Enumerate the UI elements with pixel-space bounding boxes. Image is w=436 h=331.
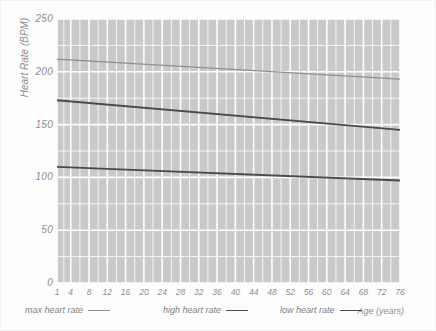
legend-label: max heart rate [25,305,83,315]
y-tick-label: 100 [35,171,53,182]
x-tick-label: 52 [286,287,295,297]
chart-canvas: Heart Rate (BPM) 250200150100500 1481216… [0,0,436,331]
x-tick-label: 60 [322,287,331,297]
x-tick-label: 16 [121,287,130,297]
x-tick-label: 72 [377,287,386,297]
legend-item: high heart rate [163,305,248,315]
legend-line-swatch [88,310,110,311]
y-tick-label: 50 [41,224,53,235]
series-line-low-heart-rate [57,167,400,181]
x-tick-label: 24 [157,287,166,297]
y-tick-label: 200 [35,66,53,77]
data-lines [57,19,400,283]
series-line-high-heart-rate [57,100,400,130]
x-tick-label: 56 [304,287,313,297]
x-tick-label: 32 [194,287,203,297]
x-tick-label: 28 [176,287,185,297]
chart-legend: max heart ratehigh heart ratelow heart r… [0,305,340,321]
x-tick-label: 1 [55,287,60,297]
x-tick-label: 68 [359,287,368,297]
legend-item: low heart rate [280,305,362,315]
x-tick-label: 76 [395,287,404,297]
x-axis-label: Age (years) [357,306,404,316]
plot-area [57,19,400,283]
x-tick-label: 40 [231,287,240,297]
x-tick-label: 4 [68,287,73,297]
x-tick-label: 44 [249,287,258,297]
y-tick-label: 250 [35,13,53,24]
y-axis-tick-labels: 250200150100500 [14,0,53,331]
legend-item: max heart rate [25,305,110,315]
x-tick-label: 20 [139,287,148,297]
x-tick-label: 48 [267,287,276,297]
legend-label: high heart rate [163,305,221,315]
legend-line-swatch [340,310,362,311]
x-tick-label: 64 [340,287,349,297]
y-tick-label: 150 [35,119,53,130]
legend-line-swatch [226,310,248,311]
x-tick-label: 12 [103,287,112,297]
legend-label: low heart rate [280,305,335,315]
x-tick-label: 36 [212,287,221,297]
series-line-max-heart-rate [57,59,400,79]
x-axis-tick-labels: 1481216202428323640444852566064687276 [0,287,436,301]
x-tick-label: 8 [87,287,92,297]
